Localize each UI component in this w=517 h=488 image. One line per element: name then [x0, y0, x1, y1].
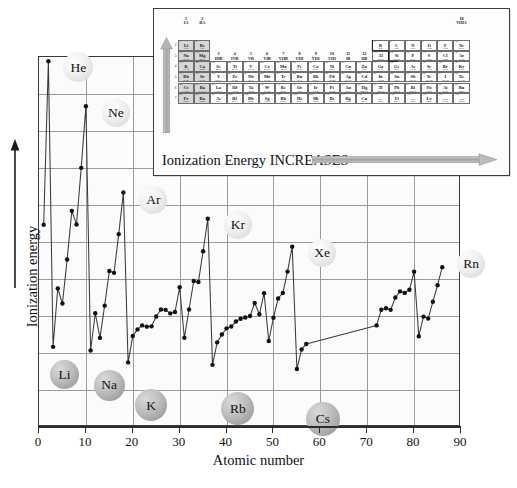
element-cell-ir: 77Ir192.22: [308, 83, 324, 94]
element-cell-ac: 89Ac(227): [210, 93, 226, 104]
group-header: 9VIII: [308, 52, 324, 61]
element-cell-xe: 54Xe131.29: [453, 72, 469, 83]
element-cell-ar: 18Ar39.95: [453, 51, 469, 62]
x-tick-label: 30: [159, 434, 199, 450]
element-cell-y: 39Y88.91: [210, 72, 226, 83]
x-tick: [272, 426, 273, 433]
element-mass: (288): [406, 101, 420, 103]
data-point: [229, 324, 233, 328]
element-cell-cl: 17Cl35.45: [437, 51, 453, 62]
group-header: 7VIIB: [275, 52, 291, 61]
element-cell-cu: 29Cu63.55: [340, 61, 356, 72]
data-point: [196, 280, 200, 284]
data-point: [163, 308, 167, 312]
data-point: [243, 315, 247, 319]
data-point: [107, 269, 111, 273]
data-point: [421, 314, 425, 318]
element-cell-te: 52Te127.60: [421, 72, 437, 83]
group-header: 5VB: [243, 52, 259, 61]
x-tick: [179, 426, 180, 433]
x-tick: [226, 426, 227, 433]
period-number: 6: [171, 86, 177, 90]
element-cell-be: 4Be9.01: [194, 40, 210, 51]
element-mass: (223): [179, 101, 193, 103]
data-point: [210, 363, 214, 367]
data-point: [398, 289, 402, 293]
y-axis-group: Ionization energy: [6, 150, 32, 410]
element-label-ne: Ne: [102, 99, 130, 127]
element-cell-rh: 45Rh102.91: [308, 72, 324, 83]
element-cell-la: 57La138.91: [210, 83, 226, 94]
y-axis-title: Ionization energy: [24, 147, 41, 407]
x-tick: [85, 426, 86, 433]
data-point: [98, 336, 102, 340]
element-cell-o: 8O16.00: [421, 40, 437, 51]
element-mass: (262): [244, 101, 258, 103]
element-cell-n: 7N14.01: [405, 40, 421, 51]
element-mass: (284): [373, 101, 387, 103]
group-header: 8VIII: [291, 52, 307, 61]
data-point: [252, 301, 256, 305]
x-tick-label: 60: [299, 434, 339, 450]
element-cell-rn: 86Rn(222): [453, 83, 469, 94]
element-cell-sr: 38Sr87.62: [194, 72, 210, 83]
element-cell-nb: 41Nb92.91: [243, 72, 259, 83]
element-cell-at: 85At(210): [437, 83, 453, 94]
period-number: 4: [171, 64, 177, 68]
element-cell-re: 75Re186.21: [275, 83, 291, 94]
element-cell-—: 117—(294): [437, 93, 453, 104]
element-mass: (268): [309, 101, 323, 103]
period-number: 5: [171, 75, 177, 79]
x-tick-label: 80: [393, 434, 433, 450]
element-cell-mn: 25Mn54.94: [275, 61, 291, 72]
element-cell-cd: 48Cd112.41: [356, 72, 372, 83]
data-point: [271, 316, 275, 320]
element-cell-ga: 31Ga69.72: [372, 61, 388, 72]
element-cell-sn: 50Sn118.71: [389, 72, 405, 83]
data-point: [201, 249, 205, 253]
data-point: [102, 303, 106, 307]
element-cell-rf: 104Rf(261): [227, 93, 243, 104]
element-cell-mg: 12Mg24.31: [194, 51, 210, 62]
element-mass: (289): [422, 101, 436, 103]
group-header: 10VIII: [324, 52, 340, 61]
element-cell-pt: 78Pt195.08: [324, 83, 340, 94]
element-label-ar: Ar: [139, 186, 167, 214]
element-cell-al: 13Al26.98: [372, 51, 388, 62]
group-header: 18VIIIA: [453, 17, 469, 26]
data-point: [267, 339, 271, 343]
x-axis-title: Atomic number: [0, 452, 517, 469]
element-cell-si: 14Si28.09: [389, 51, 405, 62]
data-point: [224, 326, 228, 330]
data-point: [384, 306, 388, 310]
element-cell-hg: 80Hg200.59: [356, 83, 372, 94]
group-header: 3IIIB: [210, 52, 226, 61]
data-point: [149, 324, 153, 328]
element-cell-bh: 107Bh(264): [275, 93, 291, 104]
element-label-cs: Cs: [306, 402, 340, 436]
data-point: [74, 222, 78, 226]
data-point: [426, 316, 430, 320]
element-cell-in: 49In114.82: [372, 72, 388, 83]
element-cell-s: 16S32.07: [421, 51, 437, 62]
element-label-li: Li: [50, 360, 79, 389]
x-tick: [413, 426, 414, 433]
element-cell-os: 76Os190.2: [291, 83, 307, 94]
data-point: [276, 296, 280, 300]
x-axis-line: [38, 426, 460, 428]
data-point: [440, 265, 444, 269]
element-label-rn: Rn: [457, 250, 485, 278]
data-point: [88, 348, 92, 352]
x-tick: [366, 426, 367, 433]
element-cell-fl: 114Fl(289): [389, 93, 405, 104]
data-point: [417, 334, 421, 338]
element-cell-ni: 28Ni58.69: [324, 61, 340, 72]
element-cell-zn: 30Zn65.39: [356, 61, 372, 72]
data-point: [238, 317, 242, 321]
element-cell-au: 79Au196.97: [340, 83, 356, 94]
x-tick: [38, 426, 39, 433]
data-point: [56, 286, 60, 290]
data-point: [407, 288, 411, 292]
data-point: [70, 209, 74, 213]
periodic-table-inset: 1IA2IIA 3IIIB4IVB5VB6VIB7VIIB8VIII9VIII1…: [153, 8, 510, 176]
